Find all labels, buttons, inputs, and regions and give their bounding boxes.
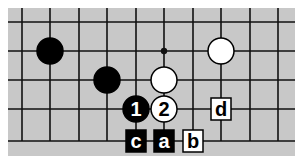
marker-label: c [130, 130, 141, 152]
white-stone [208, 38, 234, 64]
move-number: 2 [158, 98, 169, 120]
white-stone [151, 67, 177, 93]
black-stone [94, 67, 120, 93]
black-stone [37, 38, 63, 64]
marker-label: d [215, 98, 227, 120]
marker-label: b [187, 130, 199, 152]
star-point [161, 48, 167, 54]
board-drawing: 12cabd [0, 0, 295, 165]
marker-label: a [158, 130, 170, 152]
move-number: 1 [130, 98, 141, 120]
